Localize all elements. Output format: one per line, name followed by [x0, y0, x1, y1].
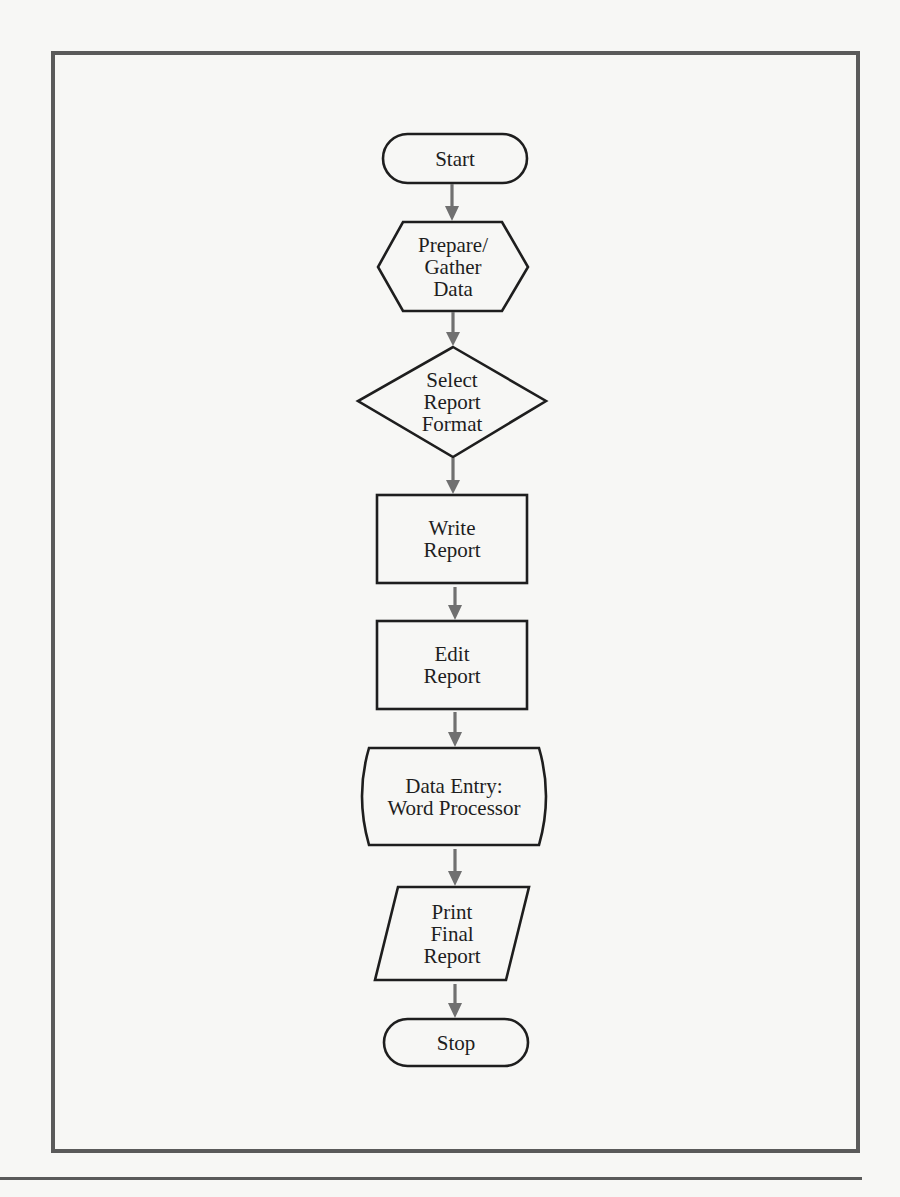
entry-label-line-1: Data Entry: — [405, 775, 502, 797]
stop-label: Stop — [384, 1019, 528, 1066]
print-label-line-2: Final — [430, 923, 473, 945]
edit-label-line-2: Report — [423, 665, 480, 687]
write-label: Write Report — [377, 495, 527, 583]
arrow-print-stop — [448, 984, 462, 1018]
write-label-line-1: Write — [429, 517, 476, 539]
prepare-label-line-3: Data — [433, 278, 473, 300]
print-label-line-3: Report — [423, 945, 480, 967]
select-label-line-2: Report — [423, 391, 480, 413]
entry-label-line-2: Word Processor — [387, 797, 520, 819]
select-label-line-3: Format — [422, 413, 483, 435]
arrow-start-prepare — [445, 184, 459, 221]
write-label-line-2: Report — [423, 539, 480, 561]
edit-label-line-1: Edit — [435, 643, 470, 665]
arrow-select-write — [446, 458, 460, 494]
print-label: Print Final Report — [375, 887, 529, 980]
entry-label: Data Entry: Word Processor — [361, 748, 547, 845]
select-label: Select Report Format — [358, 347, 546, 457]
print-label-line-1: Print — [432, 901, 473, 923]
prepare-label-line-2: Gather — [424, 256, 481, 278]
stop-label-line: Stop — [437, 1032, 476, 1054]
prepare-label: Prepare/ Gather Data — [378, 222, 528, 311]
arrow-write-edit — [448, 587, 462, 620]
start-label: Start — [383, 134, 527, 183]
start-label-line: Start — [435, 148, 475, 170]
arrow-entry-print — [448, 849, 462, 886]
prepare-label-line-1: Prepare/ — [418, 234, 488, 256]
arrow-prepare-select — [446, 312, 460, 346]
arrow-edit-entry — [448, 712, 462, 747]
edit-label: Edit Report — [377, 621, 527, 709]
select-label-line-1: Select — [426, 369, 477, 391]
